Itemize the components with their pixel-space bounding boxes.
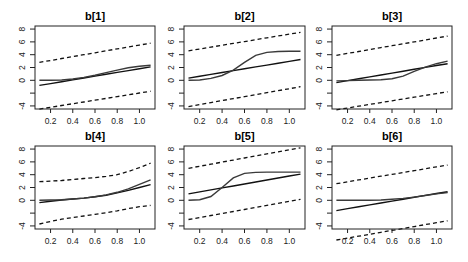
panel-6: b[6]0.20.40.60.81.0-402468 [314, 130, 452, 246]
x-axis: 0.20.40.60.81.0 [342, 109, 443, 126]
series-upper-bound [189, 148, 301, 169]
x-tick-label: 0.8 [408, 116, 420, 126]
x-tick-label: 0.4 [67, 236, 79, 246]
y-tick-label: 0 [166, 198, 176, 203]
x-tick-label: 1.0 [283, 236, 295, 246]
panel-2: b[2]0.20.40.60.81.0-402468 [166, 10, 305, 126]
y-axis: -402468 [17, 146, 35, 229]
x-axis: 0.20.40.60.81.0 [194, 229, 296, 246]
y-tick-label: 4 [314, 172, 324, 177]
panel-title: b[5] [234, 130, 255, 142]
series-upper-bound [189, 32, 301, 51]
y-tick-label: 6 [314, 39, 324, 44]
x-tick-label: 0.2 [194, 236, 206, 246]
x-tick-label: 1.0 [134, 116, 146, 126]
y-tick-label: -4 [166, 102, 176, 110]
y-tick-label: 2 [314, 185, 324, 190]
series-lower-bound [39, 91, 150, 109]
panel-5: b[5]0.20.40.60.81.0-402468 [166, 130, 305, 246]
x-tick-label: 0.2 [342, 116, 354, 126]
y-axis: -402468 [314, 146, 332, 229]
y-tick-label: 6 [17, 39, 27, 44]
y-tick-label: 6 [314, 159, 324, 164]
x-tick-label: 0.6 [239, 116, 251, 126]
y-tick-label: 8 [166, 26, 176, 31]
panel-1: b[1]0.20.40.60.81.0-402468 [17, 10, 155, 126]
y-tick-label: 0 [314, 78, 324, 83]
x-tick-label: 0.4 [216, 116, 228, 126]
x-tick-label: 1.0 [431, 236, 443, 246]
series-upper-bound [336, 165, 447, 184]
x-tick-label: 1.0 [431, 116, 443, 126]
y-tick-label: 6 [166, 39, 176, 44]
series-linear-estimate [39, 67, 150, 86]
series-upper-bound [336, 36, 447, 55]
panel-4: b[4]0.20.40.60.81.0-402468 [17, 130, 155, 246]
plot-frame [332, 146, 452, 229]
series-linear-estimate [189, 174, 301, 194]
y-tick-label: 4 [166, 172, 176, 177]
panel-title: b[2] [234, 10, 255, 22]
series-lower-bound [39, 205, 150, 224]
y-tick-label: -4 [17, 102, 27, 110]
x-tick-label: 0.8 [261, 116, 273, 126]
y-tick-label: 0 [17, 198, 27, 203]
x-tick-label: 1.0 [283, 116, 295, 126]
panel-title: b[3] [382, 10, 403, 22]
series-lower-bound [189, 87, 301, 107]
panel-title: b[4] [85, 130, 106, 142]
series-lower-bound [189, 199, 301, 219]
y-tick-label: 2 [17, 65, 27, 70]
x-tick-label: 0.8 [408, 236, 420, 246]
series-upper-bound [39, 43, 150, 62]
y-tick-label: 0 [17, 78, 27, 83]
x-tick-label: 0.6 [386, 236, 398, 246]
y-axis: -402468 [314, 26, 332, 109]
series-lower-bound [336, 92, 447, 110]
y-tick-label: 8 [314, 26, 324, 31]
y-tick-label: 4 [17, 172, 27, 177]
y-tick-label: 0 [166, 78, 176, 83]
y-tick-label: 8 [17, 26, 27, 31]
x-tick-label: 0.6 [89, 116, 101, 126]
x-tick-label: 0.2 [194, 116, 206, 126]
x-tick-label: 0.2 [45, 116, 57, 126]
y-axis: -402468 [17, 26, 35, 109]
y-tick-label: 2 [17, 185, 27, 190]
x-tick-label: 0.6 [239, 236, 251, 246]
x-tick-label: 0.4 [67, 116, 79, 126]
x-tick-label: 1.0 [134, 236, 146, 246]
x-tick-label: 0.4 [216, 236, 228, 246]
y-tick-label: 2 [314, 65, 324, 70]
figure: b[1]0.20.40.60.81.0-402468b[2]0.20.40.60… [0, 0, 468, 262]
y-tick-label: 6 [17, 159, 27, 164]
plot-frame [35, 26, 155, 109]
y-tick-label: -4 [314, 102, 324, 110]
y-tick-label: 8 [314, 146, 324, 151]
y-tick-label: 4 [17, 52, 27, 57]
x-axis: 0.20.40.60.81.0 [45, 229, 146, 246]
y-tick-label: 8 [166, 146, 176, 151]
x-tick-label: 0.8 [261, 236, 273, 246]
y-tick-label: 2 [166, 185, 176, 190]
x-axis: 0.20.40.60.81.0 [194, 109, 296, 126]
series-true-curve [39, 180, 150, 201]
y-tick-label: 0 [314, 198, 324, 203]
panel-3: b[3]0.20.40.60.81.0-402468 [314, 10, 452, 126]
y-tick-label: -4 [314, 222, 324, 230]
y-tick-label: -4 [17, 222, 27, 230]
series-true-curve [336, 61, 447, 81]
series-upper-bound [39, 163, 150, 182]
series-true-curve [39, 65, 150, 80]
y-tick-label: 4 [314, 52, 324, 57]
x-tick-label: 0.2 [45, 236, 57, 246]
panel-title: b[6] [382, 130, 403, 142]
x-tick-label: 0.8 [111, 116, 123, 126]
x-tick-label: 0.8 [111, 236, 123, 246]
x-axis: 0.20.40.60.81.0 [342, 229, 443, 246]
y-tick-label: 2 [166, 65, 176, 70]
y-tick-label: 4 [166, 52, 176, 57]
x-tick-label: 0.6 [89, 236, 101, 246]
y-tick-label: 8 [17, 146, 27, 151]
x-tick-label: 0.2 [342, 236, 354, 246]
